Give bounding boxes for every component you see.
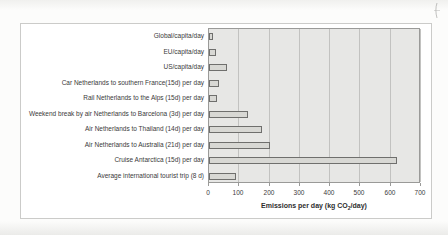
category-label: Car Netherlands to southern France(15d) …	[21, 75, 204, 91]
category-label: Global/capita/day	[21, 28, 204, 44]
x-tick-label: 0	[206, 189, 210, 196]
x-axis-title-suffix: /day)	[351, 202, 367, 209]
x-tick-mark	[208, 183, 209, 186]
category-label: Average international tourist trip (8 d)	[21, 168, 204, 184]
x-tick-mark	[269, 183, 270, 186]
x-tick-mark	[359, 183, 360, 186]
bar	[209, 173, 236, 180]
x-tick-mark	[238, 183, 239, 186]
x-tick-label: 700	[415, 189, 426, 196]
bar	[209, 80, 219, 87]
bar	[209, 126, 262, 133]
bar	[209, 95, 217, 102]
pen-mark-artifact	[430, 1, 444, 21]
category-label: Weekend break by air Netherlands to Barc…	[21, 106, 204, 122]
x-axis-title-text: Emissions per day (kg CO	[261, 202, 348, 209]
bar	[209, 111, 248, 118]
x-tick-mark	[329, 183, 330, 186]
category-label: Rail Netherlands to the Alps (15d) per d…	[21, 90, 204, 106]
bar	[209, 49, 216, 56]
category-label: Air Netherlands to Thailand (14d) per da…	[21, 121, 204, 137]
bar	[209, 142, 270, 149]
scanned-page: Global/capita/dayEU/capita/dayUS/capita/…	[0, 0, 448, 235]
category-label: US/capita/day	[21, 59, 204, 75]
x-tick-label: 500	[354, 189, 365, 196]
bar	[209, 157, 397, 164]
chart-frame: Global/capita/dayEU/capita/dayUS/capita/…	[20, 23, 432, 219]
bar	[209, 64, 227, 71]
category-label: Cruise Antarctica (15d) per day	[21, 152, 204, 168]
category-label: EU/capita/day	[21, 44, 204, 60]
bar	[209, 33, 213, 40]
gridline	[420, 29, 421, 182]
x-tick-mark	[299, 183, 300, 186]
x-tick-label: 400	[324, 189, 335, 196]
plot-area	[208, 28, 420, 183]
category-label: Air Netherlands to Australia (21d) per d…	[21, 137, 204, 153]
x-tick-label: 200	[264, 189, 275, 196]
x-tick-mark	[420, 183, 421, 186]
x-axis-title: Emissions per day (kg CO2/day)	[261, 202, 367, 211]
x-tick-label: 300	[294, 189, 305, 196]
x-tick-label: 100	[233, 189, 244, 196]
x-tick-mark	[390, 183, 391, 186]
x-tick-label: 600	[385, 189, 396, 196]
